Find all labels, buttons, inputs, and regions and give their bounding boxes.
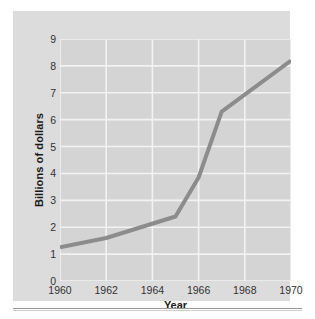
footer-divider	[13, 308, 302, 309]
x-tick-label: 1968	[233, 284, 256, 296]
x-tick-label: 1970	[279, 284, 302, 296]
plot-background	[60, 39, 291, 281]
chart-screenshot: 0123456789 196019621964196619681970 Bill…	[0, 0, 315, 319]
line-chart-svg	[60, 39, 291, 281]
x-tick-label: 1960	[48, 284, 71, 296]
x-tick-label: 1964	[141, 284, 164, 296]
figure-panel: 0123456789 196019621964196619681970 Bill…	[13, 11, 290, 301]
plot-area	[60, 39, 291, 281]
y-axis-title: Billions of dollars	[33, 39, 46, 281]
x-tick-label: 1962	[95, 284, 118, 296]
x-axis-tick-labels: 196019621964196619681970	[60, 284, 291, 298]
footer-divider-shadow	[13, 310, 302, 311]
x-tick-label: 1966	[187, 284, 210, 296]
